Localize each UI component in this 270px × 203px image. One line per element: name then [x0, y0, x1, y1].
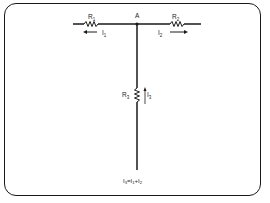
current-i2-label: I2 [158, 29, 163, 38]
resistor-r3-symbol [135, 88, 140, 102]
current-i1-label: I1 [102, 29, 107, 38]
circuit-diagram: A R1 R2 R3 I1 I2 I3 I3=I1+I2 [0, 0, 270, 203]
resistor-r1-label: R1 [88, 13, 96, 22]
resistor-r2-symbol [170, 22, 184, 27]
resistor-r3-label: R3 [122, 91, 130, 100]
vertical-wire [135, 24, 140, 170]
node-a-label: A [135, 12, 140, 19]
current-i1-arrow-icon [83, 30, 97, 34]
current-i2-arrow-icon [170, 30, 188, 34]
resistor-r2-label: R2 [172, 13, 180, 22]
resistor-r1-symbol [84, 22, 98, 27]
kcl-equation: I3=I1+I2 [123, 178, 143, 185]
current-i3-label: I3 [147, 91, 152, 100]
